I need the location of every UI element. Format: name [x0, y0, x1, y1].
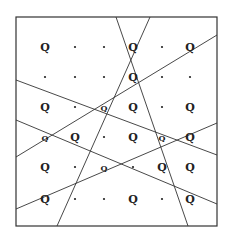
point-q-marker: Q: [157, 161, 167, 174]
point-q-marker: Q: [42, 133, 49, 143]
point-q-marker: Q: [40, 41, 50, 54]
point-dot: [103, 76, 105, 78]
point-dot: [103, 136, 105, 138]
point-dot: [103, 198, 105, 200]
point-q-marker: Q: [40, 193, 50, 206]
point-q-marker: Q: [128, 193, 138, 206]
point-q-marker: Q: [128, 101, 138, 114]
point-q-marker: Q: [101, 103, 108, 113]
point-q-marker: Q: [185, 101, 195, 114]
point-dot: [44, 76, 46, 78]
point-dot: [161, 106, 163, 108]
point-q-marker: Q: [101, 163, 108, 173]
point-dot: [103, 46, 105, 48]
point-q-marker: Q: [159, 133, 166, 143]
point-dot: [132, 166, 134, 168]
point-dot: [74, 76, 76, 78]
point-dot: [161, 46, 163, 48]
point-dot: [74, 166, 76, 168]
point-q-marker: Q: [128, 41, 138, 54]
point-q-marker: Q: [185, 161, 195, 174]
point-dot: [189, 76, 191, 78]
point-dot: [161, 76, 163, 78]
point-dot: [74, 106, 76, 108]
point-q-marker: Q: [185, 41, 195, 54]
point-dot: [74, 198, 76, 200]
point-q-marker: Q: [128, 71, 138, 84]
point-q-marker: Q: [70, 131, 80, 144]
point-dot: [74, 46, 76, 48]
points-lines-diagram: QQQQQQQQQQQQQQQQQQQQ: [0, 0, 231, 242]
point-dot: [161, 198, 163, 200]
grid-points: QQQQQQQQQQQQQQQQQQQQ: [40, 41, 195, 206]
point-q-marker: Q: [185, 131, 195, 144]
point-q-marker: Q: [40, 161, 50, 174]
point-q-marker: Q: [185, 193, 195, 206]
point-q-marker: Q: [128, 131, 138, 144]
point-q-marker: Q: [40, 101, 50, 114]
